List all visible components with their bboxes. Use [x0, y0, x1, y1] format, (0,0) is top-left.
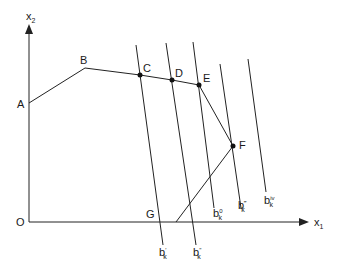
- frontier-line: [29, 68, 199, 103]
- intersection-dots: [138, 73, 236, 149]
- budget-line-b0: [193, 42, 214, 208]
- point-g-label: G: [146, 208, 155, 220]
- point-c-label: C: [143, 62, 151, 74]
- point-f-dot: [231, 144, 236, 149]
- point-c-dot: [138, 73, 143, 78]
- axes: [29, 32, 302, 222]
- point-d-dot: [170, 78, 175, 83]
- point-e-label: E: [203, 72, 210, 84]
- budget-label-b0: b0k: [213, 207, 223, 221]
- point-f-label: F: [239, 139, 246, 151]
- budget-label-b4: bivk: [264, 194, 274, 208]
- point-b-label: B: [80, 54, 87, 66]
- point-e-dot: [197, 83, 202, 88]
- point-a-label: A: [17, 98, 25, 110]
- x-axis-arrow-icon: [299, 218, 309, 226]
- budget-line-b3: [220, 64, 241, 208]
- budget-line-b4: [248, 59, 266, 192]
- y-axis-label: x2: [26, 10, 36, 24]
- budget-label-b2: b″k: [193, 246, 202, 260]
- budget-label-b3: b‴k: [238, 199, 247, 213]
- budget-label-b1: b′k: [159, 246, 167, 260]
- frontier-segment-efg: [176, 85, 233, 222]
- production-possibility-diagram: x2 x1 O A B C D E F G b′k b″k b0k b‴k bi…: [0, 0, 339, 271]
- y-axis-arrow-icon: [25, 24, 33, 34]
- point-d-label: D: [175, 67, 183, 79]
- x-axis-label: x1: [314, 216, 324, 230]
- origin-label: O: [16, 216, 25, 228]
- budget-lines: [136, 42, 266, 245]
